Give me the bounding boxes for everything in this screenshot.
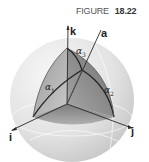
- label-alpha2: α2: [104, 86, 114, 97]
- label-alpha3: α3: [76, 47, 86, 58]
- alpha1-sub: 1: [51, 87, 55, 94]
- alpha3-sub: 3: [82, 51, 86, 58]
- label-a: a: [101, 28, 107, 39]
- alpha2-sub: 2: [110, 90, 114, 97]
- label-i: i: [9, 132, 12, 143]
- label-alpha1: α1: [45, 83, 55, 94]
- label-j: j: [131, 126, 134, 137]
- caption-word: FIGURE: [76, 6, 109, 16]
- figure-caption: FIGURE18.22: [76, 6, 136, 16]
- label-k: k: [70, 26, 76, 37]
- caption-number: 18.22: [115, 6, 137, 16]
